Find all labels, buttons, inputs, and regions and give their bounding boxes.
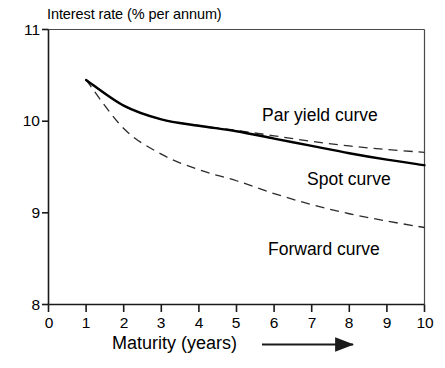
x-tick-label-10: 10 — [412, 314, 438, 332]
x-tick-label-8: 8 — [340, 314, 358, 332]
x-axis-ticks — [49, 305, 425, 313]
y-tick-label-11: 11 — [18, 21, 40, 39]
x-tick-label-0: 0 — [40, 314, 58, 332]
spot-curve-label: Spot curve — [307, 169, 391, 190]
y-tick-label-10: 10 — [18, 112, 40, 130]
forward-curve-label: Forward curve — [268, 239, 380, 260]
x-tick-label-2: 2 — [115, 314, 133, 332]
y-tick-label-9: 9 — [18, 204, 40, 222]
y-tick-label-8: 8 — [18, 296, 40, 314]
x-axis-title: Maturity (years) — [112, 333, 237, 354]
axis-frame — [49, 30, 425, 305]
forward-curve-line — [86, 80, 424, 228]
y-axis-ticks — [42, 30, 49, 305]
par-yield-curve-label: Par yield curve — [262, 105, 378, 126]
x-tick-label-9: 9 — [378, 314, 396, 332]
x-tick-label-3: 3 — [152, 314, 170, 332]
x-tick-label-7: 7 — [303, 314, 321, 332]
x-tick-label-5: 5 — [227, 314, 245, 332]
x-tick-label-4: 4 — [190, 314, 208, 332]
x-tick-label-1: 1 — [77, 314, 95, 332]
chart-figure: Interest rate (% per annum) — [0, 0, 445, 368]
x-tick-label-6: 6 — [265, 314, 283, 332]
